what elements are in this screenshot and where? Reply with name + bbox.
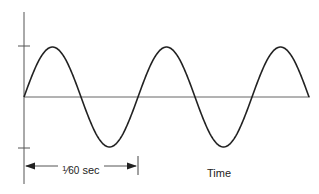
diagram-canvas [0,0,319,194]
sine-wave-diagram: 1⁄60 sec Time [0,0,319,194]
period-annotation: 1⁄60 sec [62,164,100,176]
period-unit: sec [82,164,99,176]
period-numerator: 1 [62,164,66,173]
period-denominator: 60 [68,165,79,176]
arrowhead-right-icon [127,163,137,170]
x-axis-label: Time [207,167,231,179]
arrowhead-left-icon [25,163,35,170]
